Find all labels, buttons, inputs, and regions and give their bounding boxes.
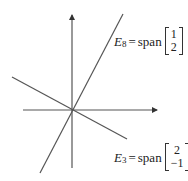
e3-vector: 2 −1 — [165, 143, 188, 171]
eigenspace-e3-line — [12, 77, 127, 139]
e8-equals: = — [128, 35, 135, 48]
e8-span-text: span — [138, 35, 162, 48]
right-bracket — [185, 143, 188, 171]
e3-equals: = — [128, 151, 135, 164]
e3-span-text: span — [138, 151, 162, 164]
e3-label: E3 = span 2 −1 — [114, 143, 188, 171]
e3-subscript: 3 — [122, 156, 127, 165]
eigenspace-diagram: E8 = span 1 2 E3 = span 2 −1 — [0, 0, 188, 181]
e3-vector-entry-2: −1 — [171, 157, 184, 170]
e8-vector-entry-2: 2 — [171, 41, 177, 54]
eigenspace-e8-line — [40, 14, 123, 173]
e8-symbol: E — [114, 35, 122, 48]
e3-symbol: E — [114, 151, 122, 164]
right-bracket — [179, 27, 183, 55]
e8-subscript: 8 — [122, 40, 127, 49]
e8-label: E8 = span 1 2 — [114, 27, 183, 55]
e8-vector: 1 2 — [165, 27, 183, 55]
